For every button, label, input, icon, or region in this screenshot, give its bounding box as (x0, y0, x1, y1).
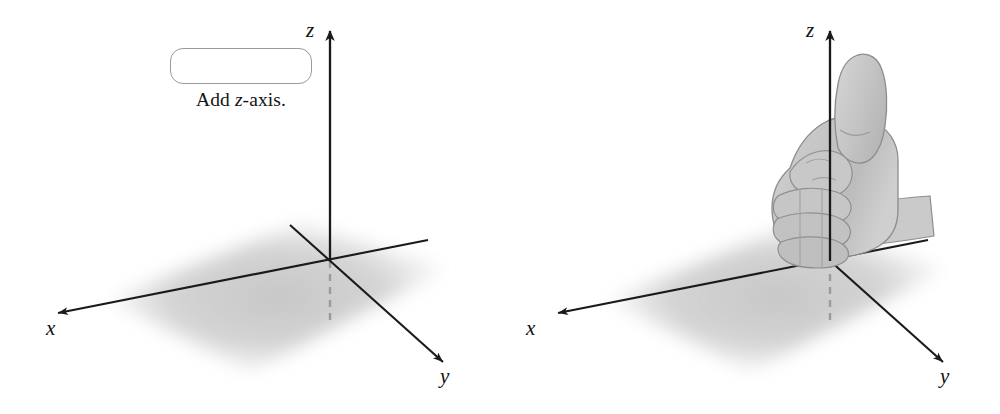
callout-add-z-axis-text: Add z-axis. (196, 89, 286, 110)
coordinate-system-figure: Add z-axis. x y z Right-handed coordinat… (0, 0, 1000, 414)
axis-label-y-right: y (940, 364, 949, 389)
axis-label-x-left: x (46, 316, 55, 341)
panel-right: Right-handed coordinate system. x y z (500, 0, 1000, 414)
panel-left: Add z-axis. x y z (0, 0, 500, 414)
callout-add-z-axis: Add z-axis. (170, 48, 312, 84)
axis-label-x-right: x (526, 316, 535, 341)
axis-label-y-left: y (440, 364, 449, 389)
axis-label-z-right: z (806, 18, 814, 43)
axis-label-z-left: z (306, 18, 314, 43)
